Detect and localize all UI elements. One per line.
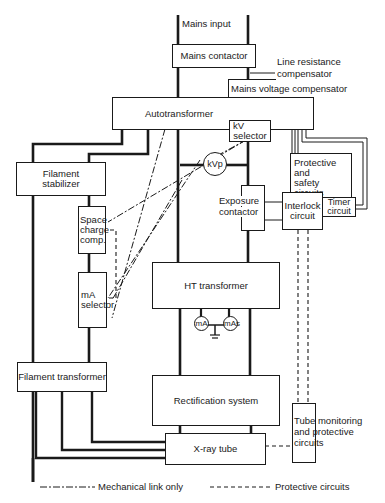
exposure-label-2: contactor (219, 207, 258, 217)
filament-stabilizer-label-2: stabilizer (42, 179, 80, 189)
protective-label-1: Protective (294, 158, 336, 168)
exposure-label-1: Exposure (219, 196, 259, 206)
filament-transformer-box: Filament transformer (17, 362, 107, 392)
space-charge-box: Space charge comp. (78, 206, 106, 254)
interlock-circuit-box: Interlock circuit (282, 192, 323, 230)
ma-selector-box: mA selector (78, 272, 107, 328)
filament-stabilizer-box: Filament stabilizer (16, 162, 106, 196)
kvp-meter: kVp (203, 152, 227, 176)
timer-label-2: circuit (327, 207, 351, 216)
line-resistance-label-1: Line resistance (277, 57, 341, 67)
xray-tube-box: X-ray tube (165, 433, 266, 465)
kv-selector-box: kV selector (229, 120, 271, 142)
kv-selector-label-2: selector (233, 131, 266, 141)
ht-transformer-box: HT transformer (152, 262, 280, 309)
mains-input-label: Mains input (182, 19, 231, 29)
interlock-label-2: circuit (290, 211, 315, 221)
line-resistance-label-2: compensator (277, 69, 332, 79)
tube-monitoring-label-2: and protective (294, 427, 354, 437)
rectification-system-box: Rectification system (152, 375, 280, 426)
tube-monitoring-label-1: Tube monitoring (294, 416, 362, 426)
mas-meter: mAs (223, 316, 238, 331)
legend-protective-label: Protective circuits (275, 482, 349, 492)
ma-meter: mA (194, 316, 209, 331)
ma-selector-label-2: selector (81, 300, 114, 310)
space-label-3: comp. (80, 235, 106, 245)
mains-voltage-compensator-label: Mains voltage compensator (231, 84, 347, 94)
mains-contactor-box: Mains contactor (172, 44, 256, 68)
legend-mechanical-label: Mechanical link only (98, 482, 183, 492)
tube-monitoring-label-3: circuits (294, 438, 324, 448)
autotransformer-box: Autotransformer (112, 97, 314, 130)
timer-circuit-box: Timer circuit (322, 197, 356, 217)
protective-label-2: and (294, 168, 310, 178)
